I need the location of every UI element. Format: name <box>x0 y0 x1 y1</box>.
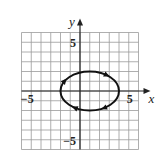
y-tick-label: −5 <box>63 134 76 148</box>
x-tick-label: 5 <box>127 92 133 106</box>
y-tick-label: 5 <box>70 36 76 50</box>
x-axis-label: x <box>148 91 155 106</box>
x-tick-label: −5 <box>21 92 34 106</box>
ellipse-plot: xy−555−5 <box>0 0 155 153</box>
y-axis-arrow-icon <box>77 19 83 26</box>
y-axis-label: y <box>67 14 75 29</box>
